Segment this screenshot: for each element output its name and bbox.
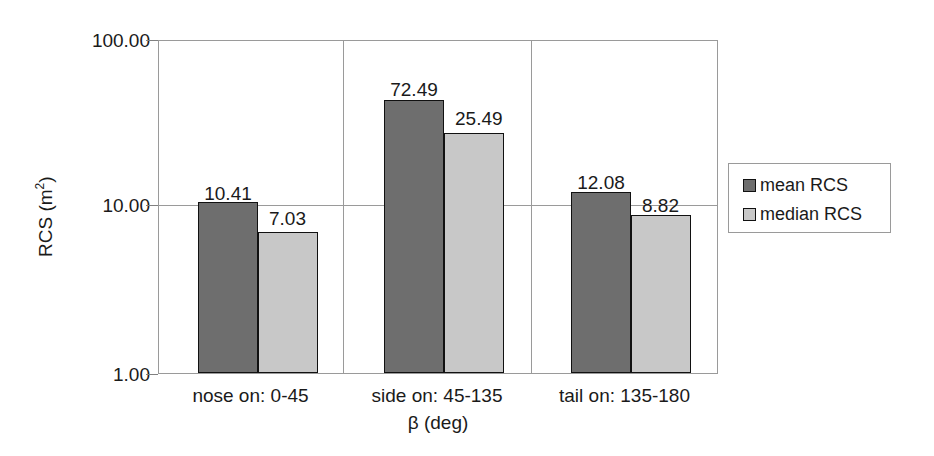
bar-value-median-tail-on: 8.82 xyxy=(642,196,722,215)
y-axis-title-base: RCS (m xyxy=(35,189,56,257)
bar-mean-side-on[interactable] xyxy=(384,100,444,373)
bar-value-mean-nose-on: 10.41 xyxy=(183,184,273,203)
plot-area: 10.41 7.03 72.49 25.49 12.08 8.82 xyxy=(158,40,718,374)
y-axis-title-tail: ) xyxy=(35,176,56,182)
bar-median-nose-on[interactable] xyxy=(258,232,318,373)
x-axis-title: β (deg) xyxy=(158,412,718,434)
x-tick-label-tail-on: tail on: 135-180 xyxy=(531,386,718,406)
category-separator-2 xyxy=(531,41,532,373)
x-tick-label-side-on: side on: 45-135 xyxy=(343,386,531,406)
bar-median-tail-on[interactable] xyxy=(631,215,691,373)
y-axis-title-exponent: 2 xyxy=(33,183,47,190)
legend-label-median-rcs: median RCS xyxy=(760,205,862,223)
x-tick-label-nose-on: nose on: 0-45 xyxy=(158,386,343,406)
bar-value-median-side-on: 25.49 xyxy=(455,109,545,128)
bar-mean-tail-on[interactable] xyxy=(571,192,631,373)
y-tick-label-10: 10.00 xyxy=(50,196,150,215)
chart-legend: mean RCS median RCS xyxy=(728,163,891,233)
y-tick-label-100: 100.00 xyxy=(50,31,150,50)
bar-median-side-on[interactable] xyxy=(444,133,504,373)
legend-swatch-icon-mean xyxy=(743,179,756,192)
y-tick-mark-100 xyxy=(146,40,158,41)
category-separator-1 xyxy=(343,41,344,373)
bar-value-mean-side-on: 72.49 xyxy=(369,80,459,99)
y-axis-title: RCS (m2) xyxy=(33,147,56,287)
legend-label-mean-rcs: mean RCS xyxy=(760,176,848,194)
bar-mean-nose-on[interactable] xyxy=(198,202,258,373)
chart-figure: 100.00 10.00 1.00 RCS (m2) 10.41 7.03 72… xyxy=(0,0,934,456)
y-tick-mark-1 xyxy=(146,374,158,375)
y-tick-label-1: 1.00 xyxy=(50,365,150,384)
y-tick-mark-10 xyxy=(146,205,158,206)
legend-item-median-rcs[interactable]: median RCS xyxy=(743,205,862,223)
bar-value-mean-tail-on: 12.08 xyxy=(556,173,646,192)
legend-swatch-icon-median xyxy=(743,208,756,221)
legend-item-mean-rcs[interactable]: mean RCS xyxy=(743,176,848,194)
bar-value-median-nose-on: 7.03 xyxy=(269,209,349,228)
